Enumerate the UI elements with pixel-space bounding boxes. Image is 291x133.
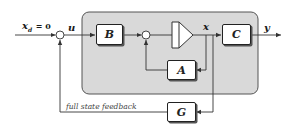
block-g: G: [167, 102, 196, 122]
block-c: C: [222, 24, 251, 45]
inner-summing-junction: [142, 31, 150, 39]
reference-label: xd = 0: [22, 21, 51, 33]
diagram-wires: [0, 0, 291, 133]
reference-subscript: d: [28, 26, 32, 33]
block-b: B: [96, 24, 123, 45]
outer-summing-junction: [56, 31, 64, 39]
feedback-label: full state feedback: [66, 102, 136, 111]
state-signal-label: x: [203, 22, 209, 32]
control-signal-label: u: [68, 23, 75, 33]
reference-value: = 0: [36, 21, 51, 31]
block-a: A: [167, 60, 196, 80]
block-diagram: xd = 0 u x y B C A G full state feedback: [0, 0, 291, 133]
output-signal-label: y: [264, 23, 270, 33]
